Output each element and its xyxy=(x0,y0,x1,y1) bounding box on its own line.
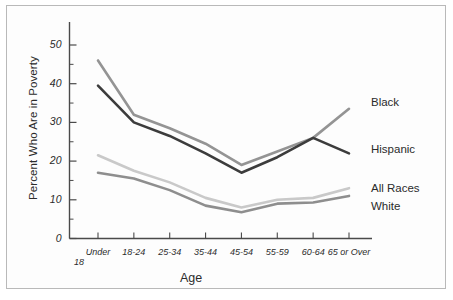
y-axis-tick-label: 30 xyxy=(40,115,62,127)
y-axis-tick-label: 50 xyxy=(40,38,62,50)
x-axis-tick-label-line2: 18 xyxy=(70,257,126,267)
y-axis-title: Percent Who Are in Poverty xyxy=(27,33,39,223)
series-label-hispanic: Hispanic xyxy=(371,143,415,155)
poverty-by-age-chart: Percent Who Are in Poverty Age 010203040… xyxy=(0,0,453,300)
y-axis-tick-label: 10 xyxy=(40,193,62,205)
x-axis-tick-label: 65 or Over xyxy=(321,247,377,257)
y-axis-tick-label: 40 xyxy=(40,77,62,89)
series-line-white xyxy=(98,173,349,212)
y-axis-tick-label: 0 xyxy=(40,232,62,244)
series-line-black xyxy=(98,60,349,164)
x-axis-title: Age xyxy=(180,271,202,285)
series-label-all-races: All Races xyxy=(371,182,420,194)
series-label-white: White xyxy=(371,200,400,212)
y-axis-tick-label: 20 xyxy=(40,154,62,166)
series-line-hispanic xyxy=(98,86,349,173)
series-label-black: Black xyxy=(371,96,399,108)
